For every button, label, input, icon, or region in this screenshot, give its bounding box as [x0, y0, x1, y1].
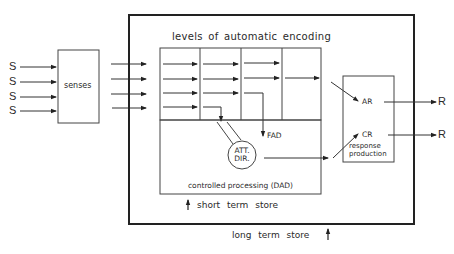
input-s-3: S — [9, 91, 16, 102]
short-term-store-label: short term store — [197, 201, 278, 210]
output-arrows — [384, 102, 436, 135]
ar-label: AR — [362, 98, 372, 106]
response-production-label: response production — [349, 142, 387, 158]
long-term-store-label: long term store — [232, 231, 309, 240]
att-dir-connector — [217, 122, 241, 144]
input-s-1: S — [9, 61, 16, 72]
att-dir-label: ATT. DIR. — [230, 147, 254, 164]
att-dir-line2: DIR. — [230, 155, 254, 163]
controlled-processing-label: controlled processing (DAD) — [188, 182, 293, 190]
senses-label: senses — [64, 82, 91, 90]
response-line2: production — [349, 150, 387, 158]
input-arrows — [20, 67, 56, 111]
cr-label: CR — [362, 131, 372, 139]
output-r-1: R — [438, 96, 446, 107]
output-r-2: R — [438, 129, 446, 140]
to-ar-arrow — [331, 82, 358, 101]
fad-label: FAD — [267, 132, 282, 140]
input-s-2: S — [9, 76, 16, 87]
input-s-4: S — [9, 105, 16, 116]
response-line1: response — [349, 142, 387, 150]
encoding-grid — [160, 48, 321, 120]
encoding-title: levels of automatic encoding — [172, 32, 331, 42]
